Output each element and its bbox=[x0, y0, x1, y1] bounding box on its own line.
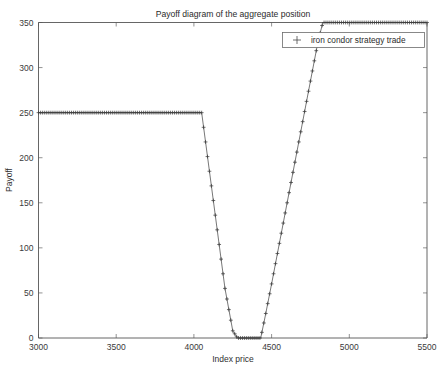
y-tick-label: 50 bbox=[24, 288, 34, 298]
y-tick-label: 100 bbox=[19, 243, 33, 253]
x-tick-label: 4000 bbox=[184, 342, 203, 352]
x-tick-label: 3500 bbox=[107, 342, 126, 352]
y-tick-label: 150 bbox=[19, 198, 33, 208]
legend-label-iron-condor: iron condor strategy trade bbox=[311, 35, 406, 45]
chart-title: Payoff diagram of the aggregate position bbox=[156, 9, 311, 19]
series-line-iron-condor bbox=[39, 23, 428, 339]
payoff-chart: Payoff diagram of the aggregate position… bbox=[0, 0, 445, 376]
series-markers-iron-condor bbox=[37, 21, 429, 340]
x-tick-label: 3000 bbox=[29, 342, 48, 352]
x-axis-title: Index price bbox=[212, 354, 254, 364]
y-axis-ticks: 050100150200250300350 bbox=[19, 18, 427, 344]
chart-legend[interactable]: iron condor strategy trade bbox=[283, 33, 425, 48]
y-tick-label: 200 bbox=[19, 153, 33, 163]
y-axis-title: Payoff bbox=[4, 167, 14, 192]
y-tick-label: 300 bbox=[19, 63, 33, 73]
y-tick-label: 250 bbox=[19, 108, 33, 118]
figure-canvas: Payoff diagram of the aggregate position… bbox=[0, 0, 445, 376]
x-tick-label: 5500 bbox=[418, 342, 437, 352]
x-axis-ticks: 300035004000450050005500 bbox=[29, 23, 437, 353]
y-tick-label: 350 bbox=[19, 18, 33, 28]
axes-frame bbox=[39, 23, 428, 339]
x-tick-label: 4500 bbox=[262, 342, 281, 352]
x-tick-label: 5000 bbox=[340, 342, 359, 352]
